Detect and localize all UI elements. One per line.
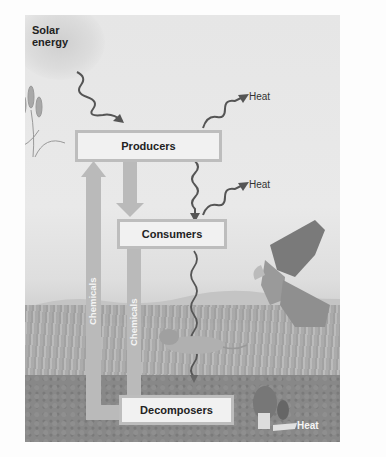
mouse-icon (159, 329, 247, 354)
hawk-icon (253, 220, 330, 327)
morel-mushroom-icon (253, 386, 297, 431)
solar-energy-arrow (77, 72, 122, 121)
solar-label-line1: Solar (32, 24, 68, 36)
chemical-arrow-producers-to-consumers (116, 160, 144, 217)
solar-label-line2: energy (32, 36, 68, 48)
cattail-plant-icon (25, 86, 65, 157)
producers-box: Producers (75, 130, 222, 162)
decomposers-box: Decomposers (119, 395, 234, 425)
chemicals-label-left: Chemicals (87, 277, 98, 325)
consumers-box: Consumers (117, 219, 227, 249)
heat-label-top: Heat (249, 91, 270, 102)
solar-energy-label: Solar energy (32, 24, 68, 48)
heat-label-middle: Heat (249, 179, 270, 190)
heat-label-bottom: Heat (297, 420, 319, 431)
diagram-panel: Solar energy Heat Heat Heat Producers Co… (25, 15, 340, 442)
chemicals-label-middle: Chemicals (128, 298, 139, 346)
